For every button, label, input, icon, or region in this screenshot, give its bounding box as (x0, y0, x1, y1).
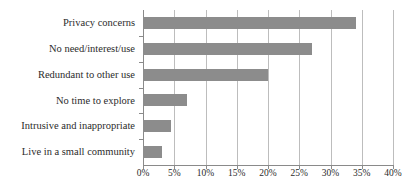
x-axis-tick-label: 0% (137, 168, 150, 178)
bar-row (143, 36, 312, 62)
x-axis-tick-label: 15% (228, 168, 245, 178)
bar (143, 146, 162, 158)
bar-row (143, 113, 171, 139)
bar (143, 120, 171, 132)
bar (143, 43, 312, 55)
category-label: Intrusive and inappropriate (0, 113, 139, 139)
gridline (393, 10, 394, 165)
x-axis-tick-label: 10% (197, 168, 214, 178)
x-axis-tick-label: 25% (291, 168, 308, 178)
x-axis-line (143, 165, 393, 166)
x-axis-tick-labels: 0%5%10%15%20%25%30%35%40% (143, 168, 393, 184)
x-axis-tick-label: 20% (259, 168, 276, 178)
x-axis-tick-label: 35% (353, 168, 370, 178)
plot-area (143, 10, 393, 165)
bar (143, 94, 187, 106)
bar (143, 69, 268, 81)
bar-row (143, 88, 187, 114)
bar-series (143, 10, 393, 165)
x-axis-tick-label: 30% (322, 168, 339, 178)
category-label: Privacy concerns (0, 10, 139, 36)
category-label: No time to explore (0, 88, 139, 114)
x-axis-tick-label: 40% (384, 168, 401, 178)
category-axis-labels: Privacy concernsNo need/interest/useRedu… (0, 10, 139, 165)
bar-row (143, 10, 356, 36)
bar-row (143, 62, 268, 88)
category-label: Redundant to other use (0, 62, 139, 88)
category-label: No need/interest/use (0, 36, 139, 62)
bar-row (143, 139, 162, 165)
category-label: Live in a small community (0, 139, 139, 165)
x-axis-tick-label: 5% (168, 168, 181, 178)
horizontal-bar-chart: Privacy concernsNo need/interest/useRedu… (0, 0, 406, 196)
bar (143, 17, 356, 29)
